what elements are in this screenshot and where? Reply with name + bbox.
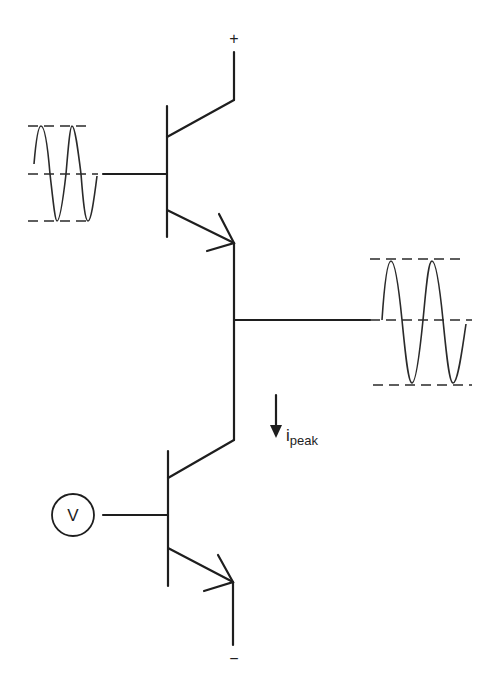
upper-collector [167, 100, 234, 137]
upper-emitter [167, 210, 234, 243]
negative-supply-label: − [229, 650, 238, 667]
output-waveform [370, 259, 472, 385]
negative-supply: − [229, 582, 238, 667]
voltage-source-label: V [67, 506, 79, 525]
positive-supply-label: + [229, 30, 238, 47]
peak-current-indicator: ipeak [270, 395, 318, 448]
input-waveform [28, 126, 98, 221]
current-arrowhead-icon [270, 425, 282, 438]
positive-supply: + [229, 30, 238, 100]
upper-transistor [167, 100, 234, 251]
circuit-diagram: + ipeak V [0, 0, 496, 693]
lower-collector [168, 440, 234, 478]
voltage-source: V [52, 494, 94, 536]
lower-emitter-arrow-icon [204, 555, 233, 591]
current-label: ipeak [286, 426, 318, 448]
lower-transistor [168, 440, 234, 591]
